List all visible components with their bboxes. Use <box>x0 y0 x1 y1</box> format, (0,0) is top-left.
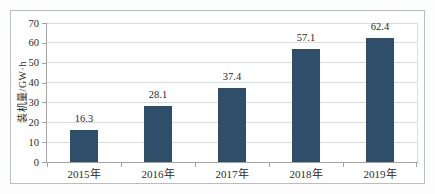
y-tick-mark <box>42 43 46 44</box>
x-tick-mark <box>343 163 344 167</box>
bar-value-label: 62.4 <box>350 21 410 33</box>
x-tick-mark <box>195 163 196 167</box>
y-tick-label: 50 <box>11 56 39 69</box>
x-tick-mark <box>269 163 270 167</box>
y-tick-label: 40 <box>11 76 39 89</box>
bar-chart-figure: 装机量/GW·h 01020304050607016.32015年28.1201… <box>0 0 435 194</box>
x-axis-line <box>46 162 418 163</box>
bar <box>366 38 394 162</box>
y-tick-label: 30 <box>11 96 39 109</box>
bar-value-label: 57.1 <box>276 32 336 44</box>
y-tick-mark <box>42 63 46 64</box>
y-axis-line <box>46 23 47 163</box>
y-tick-label: 20 <box>11 116 39 129</box>
y-tick-label: 70 <box>11 17 39 30</box>
x-tick-label: 2018年 <box>269 168 343 181</box>
bar-value-label: 16.3 <box>54 113 114 125</box>
x-tick-label: 2017年 <box>195 168 269 181</box>
gridline <box>47 62 417 63</box>
bar <box>292 49 320 162</box>
x-tick-mark <box>416 163 417 167</box>
plot-right-border <box>417 23 418 162</box>
bar <box>70 130 98 162</box>
y-tick-label: 60 <box>11 36 39 49</box>
y-tick-label: 10 <box>11 136 39 149</box>
x-tick-label: 2015年 <box>47 168 121 181</box>
y-tick-mark <box>42 23 46 24</box>
bar-value-label: 28.1 <box>128 89 188 101</box>
y-tick-label: 0 <box>11 156 39 169</box>
bar <box>144 106 172 162</box>
y-axis-title: 装机量/GW·h <box>14 61 29 123</box>
x-tick-label: 2016年 <box>121 168 195 181</box>
y-tick-mark <box>42 122 46 123</box>
x-tick-label: 2019年 <box>343 168 417 181</box>
y-tick-mark <box>42 102 46 103</box>
y-tick-mark <box>42 83 46 84</box>
gridline <box>47 42 417 43</box>
y-tick-mark <box>42 142 46 143</box>
x-tick-mark <box>121 163 122 167</box>
x-tick-mark <box>47 163 48 167</box>
y-tick-mark <box>42 162 46 163</box>
bar <box>218 88 246 162</box>
bar-value-label: 37.4 <box>202 71 262 83</box>
